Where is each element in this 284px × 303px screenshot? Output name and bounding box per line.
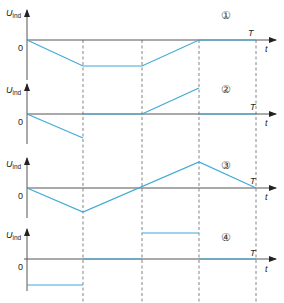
diagram-canvas: Uind 0 T t ① Uind 0 T t ② Uind 0 T t ③	[0, 0, 284, 303]
y-axis-label: Uind	[6, 8, 22, 19]
voltage-curve	[27, 40, 256, 66]
y-axis-label: Uind	[6, 159, 22, 170]
graph-number: ③	[221, 159, 231, 171]
time-axis-label: t	[265, 264, 268, 274]
origin-label: 0	[18, 117, 23, 127]
graph-number: ②	[221, 83, 231, 95]
voltage-segment	[27, 114, 83, 138]
time-axis-label: t	[265, 44, 268, 54]
y-axis-label: Uind	[6, 230, 22, 241]
dashed-guides	[83, 40, 256, 303]
time-axis-label: t	[265, 118, 268, 128]
origin-label: 0	[18, 191, 23, 201]
graph-1: Uind 0 T t ①	[6, 8, 276, 80]
graph-number: ①	[221, 9, 231, 21]
y-axis-label: Uind	[6, 85, 22, 96]
graph-3: Uind 0 T t ③	[6, 158, 276, 218]
graph-4: Uind 0 T t ④	[6, 229, 276, 291]
voltage-segment	[142, 88, 199, 114]
time-axis-label: t	[265, 192, 268, 202]
period-label: T	[248, 28, 255, 38]
origin-label: 0	[18, 43, 23, 53]
graph-2: Uind 0 T t ②	[6, 83, 276, 144]
graph-number: ④	[221, 231, 231, 243]
origin-label: 0	[18, 262, 23, 272]
